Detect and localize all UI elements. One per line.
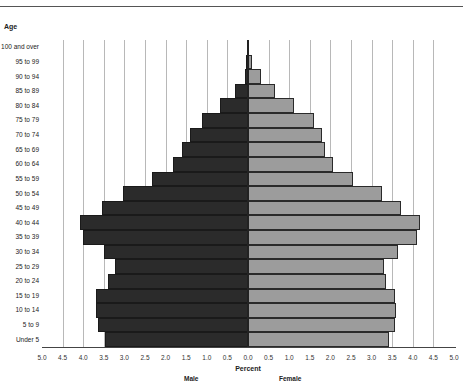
- x-tick-label: 5.0: [444, 354, 464, 361]
- age-group-label: 5 to 9: [0, 321, 39, 329]
- x-tick-label: 1.5: [300, 354, 320, 361]
- female-bar: [248, 201, 401, 216]
- age-group-label: 90 to 94: [0, 73, 39, 81]
- age-group-label: 25 to 29: [0, 263, 39, 271]
- gridline: [83, 40, 84, 347]
- x-tick-label: 4.0: [73, 354, 93, 361]
- age-group-label: 45 to 49: [0, 204, 39, 212]
- male-bar: [98, 318, 248, 333]
- age-group-label: 60 to 64: [0, 160, 39, 168]
- age-group-label: 55 to 59: [0, 175, 39, 183]
- age-group-label: 100 and over: [0, 43, 39, 51]
- male-bar: [173, 157, 248, 172]
- female-bar: [248, 230, 417, 245]
- female-bar: [248, 157, 333, 172]
- male-bar: [104, 245, 248, 260]
- x-tick-label: 1.0: [197, 354, 217, 361]
- x-axis-line: [42, 347, 456, 348]
- female-bar: [248, 128, 322, 143]
- age-group-label: 10 to 14: [0, 306, 39, 314]
- age-group-label: 70 to 74: [0, 131, 39, 139]
- x-tick-label: 5.0: [32, 354, 52, 361]
- female-bar: [248, 142, 325, 157]
- gridline: [63, 40, 64, 347]
- male-bar: [220, 98, 248, 113]
- female-bar: [248, 186, 382, 201]
- male-bar: [96, 289, 248, 304]
- male-bar: [83, 230, 248, 245]
- male-bar: [102, 201, 248, 216]
- x-tick-label: 2.5: [135, 354, 155, 361]
- female-bar: [248, 303, 396, 318]
- x-tick-label: 2.0: [156, 354, 176, 361]
- male-bar: [96, 303, 248, 318]
- male-bar: [105, 332, 248, 347]
- age-group-label: 95 to 99: [0, 58, 39, 66]
- age-group-label: 75 to 79: [0, 116, 39, 124]
- x-tick-label: 3.5: [94, 354, 114, 361]
- x-tick-label: 1.0: [279, 354, 299, 361]
- female-bar: [248, 259, 384, 274]
- female-bar: [248, 55, 252, 70]
- male-bar: [108, 274, 248, 289]
- x-tick-label: 4.5: [53, 354, 73, 361]
- female-bar: [248, 84, 275, 99]
- age-group-label: 40 to 44: [0, 219, 39, 227]
- male-bar: [123, 186, 248, 201]
- zero-axis-line: [247, 40, 249, 347]
- male-bar: [190, 128, 248, 143]
- x-tick-label: 3.0: [114, 354, 134, 361]
- x-tick-label: 0.5: [217, 354, 237, 361]
- gridline: [433, 40, 434, 347]
- female-bar: [248, 215, 420, 230]
- female-bar: [248, 98, 294, 113]
- gridline: [413, 40, 414, 347]
- age-group-label: 80 to 84: [0, 102, 39, 110]
- female-bar: [248, 172, 353, 187]
- x-tick-label: 0.5: [259, 354, 279, 361]
- age-group-label: 15 to 19: [0, 292, 39, 300]
- x-tick-label: 1.5: [176, 354, 196, 361]
- female-bar: [248, 289, 395, 304]
- male-bar: [80, 215, 248, 230]
- age-group-label: 20 to 24: [0, 277, 39, 285]
- x-tick-label: 4.5: [423, 354, 443, 361]
- population-pyramid-chart: 100 and over95 to 9990 to 9485 to 8980 t…: [0, 0, 468, 391]
- female-bar: [248, 318, 395, 333]
- x-tick-label: 4.0: [403, 354, 423, 361]
- male-bar: [182, 142, 248, 157]
- age-group-label: Under 5: [0, 336, 39, 344]
- female-bar: [248, 113, 314, 128]
- x-tick-label: 3.5: [382, 354, 402, 361]
- age-group-label: 50 to 54: [0, 190, 39, 198]
- x-axis-title: Percent: [228, 365, 268, 372]
- age-group-label: 35 to 39: [0, 233, 39, 241]
- female-bar: [248, 332, 389, 347]
- female-bar: [248, 69, 261, 84]
- female-bar: [248, 274, 386, 289]
- male-bar: [202, 113, 248, 128]
- female-bar: [248, 245, 398, 260]
- x-tick-label: 3.0: [362, 354, 382, 361]
- male-bar: [235, 84, 248, 99]
- x-tick-label: 0.0: [238, 354, 258, 361]
- female-label: Female: [279, 375, 301, 382]
- male-bar: [115, 259, 248, 274]
- x-tick-label: 2.5: [341, 354, 361, 361]
- male-bar: [152, 172, 248, 187]
- age-group-label: 65 to 69: [0, 146, 39, 154]
- male-label: Male: [184, 375, 198, 382]
- x-tick-label: 2.0: [320, 354, 340, 361]
- age-group-label: 30 to 34: [0, 248, 39, 256]
- age-group-label: 85 to 89: [0, 87, 39, 95]
